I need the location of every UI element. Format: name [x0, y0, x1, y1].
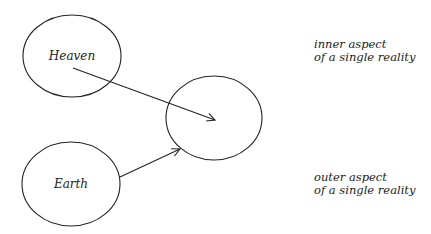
- arrow-heaven-to-unity: [73, 68, 215, 120]
- inner-aspect-annotation: inner aspect of a single reality: [314, 38, 415, 64]
- outer-aspect-annotation: outer aspect of a single reality: [314, 171, 415, 197]
- inner-aspect-line2: of a single reality: [314, 51, 415, 64]
- heaven-label: Heaven: [48, 49, 95, 63]
- node-earth: Earth: [22, 142, 120, 226]
- earth-label: Earth: [53, 177, 88, 191]
- arrow-earth-to-unity: [120, 149, 180, 177]
- diagram-canvas: Heaven Earth: [0, 0, 431, 234]
- outer-aspect-line2: of a single reality: [314, 184, 415, 197]
- node-unity: [166, 76, 262, 160]
- node-heaven: Heaven: [23, 15, 121, 97]
- unity-ellipse: [166, 76, 262, 160]
